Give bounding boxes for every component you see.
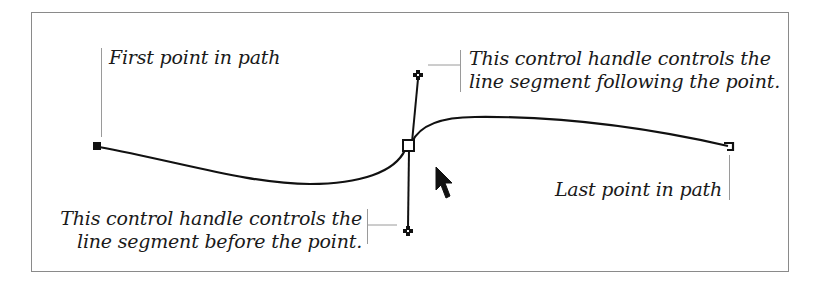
handle-line-before [408,150,409,228]
control-handle-before[interactable] [403,226,413,236]
arrow-pointer-icon [436,167,452,198]
first-point-square[interactable] [93,142,101,150]
first-point-label: First point in path [109,46,280,69]
before-handle-label-line1: This control handle controls the [60,207,362,230]
following-handle-label-line1: This control handle controls the [469,47,771,70]
before-handle-label-line2: line segment before the point. [77,230,362,253]
handle-line-following [412,79,418,142]
control-handle-following[interactable] [413,70,423,80]
following-handle-label-line2: line segment following the point. [469,70,780,93]
last-point-label: Last point in path [555,178,722,201]
selected-anchor-square[interactable] [403,140,414,151]
segment-before[interactable] [99,147,405,184]
segment-following[interactable] [412,117,728,146]
